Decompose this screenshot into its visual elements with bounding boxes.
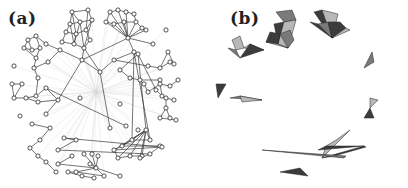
- node: [142, 82, 146, 86]
- panel-a: (a): [0, 0, 204, 188]
- node: [74, 170, 78, 174]
- node: [72, 42, 76, 46]
- node: [122, 20, 126, 24]
- node: [134, 20, 138, 24]
- node: [124, 124, 128, 128]
- network-graph-b: [204, 0, 408, 188]
- node: [90, 18, 94, 22]
- node: [36, 76, 40, 80]
- edge: [46, 88, 58, 100]
- node: [30, 48, 34, 52]
- node: [74, 32, 78, 36]
- node: [128, 76, 132, 80]
- node: [22, 46, 26, 50]
- node: [56, 148, 60, 152]
- node: [174, 118, 178, 122]
- node: [82, 46, 86, 50]
- node: [168, 60, 172, 64]
- node: [158, 78, 162, 82]
- edge: [58, 140, 76, 150]
- node: [112, 58, 116, 62]
- node: [118, 174, 122, 178]
- node: [44, 160, 48, 164]
- edge: [128, 22, 136, 38]
- node: [158, 66, 162, 70]
- node: [36, 100, 40, 104]
- node: [56, 98, 60, 102]
- node: [54, 170, 58, 174]
- simplex: [216, 84, 226, 98]
- panel-label-a: (a): [8, 8, 37, 28]
- edge: [36, 78, 38, 96]
- simplices: [216, 10, 378, 176]
- node: [98, 70, 102, 74]
- node: [164, 106, 168, 110]
- simplex: [364, 108, 374, 118]
- node: [88, 38, 92, 42]
- node: [44, 42, 48, 46]
- node: [148, 152, 152, 156]
- node: [108, 126, 112, 130]
- node: [30, 122, 34, 126]
- node: [144, 128, 148, 132]
- panel-b: (b): [204, 0, 408, 188]
- node: [120, 144, 124, 148]
- node: [60, 40, 64, 44]
- node: [138, 78, 142, 82]
- node: [126, 36, 130, 40]
- node: [128, 154, 132, 158]
- edge: [84, 20, 92, 48]
- node: [90, 152, 94, 156]
- node: [136, 128, 140, 132]
- node: [124, 10, 128, 14]
- node: [10, 82, 14, 86]
- node: [82, 152, 86, 156]
- edge: [138, 54, 156, 90]
- node: [96, 154, 100, 158]
- node: [34, 34, 38, 38]
- node: [158, 82, 162, 86]
- node: [160, 145, 164, 149]
- node: [26, 38, 30, 42]
- node: [168, 116, 172, 120]
- node: [66, 170, 70, 174]
- node: [136, 52, 140, 56]
- edge: [82, 60, 100, 72]
- node: [158, 116, 162, 120]
- edge: [70, 24, 74, 44]
- node: [166, 50, 170, 54]
- edge: [32, 124, 50, 128]
- node: [92, 176, 96, 180]
- node: [140, 26, 144, 30]
- simplex: [364, 52, 374, 68]
- node: [86, 8, 90, 12]
- edge: [80, 22, 84, 48]
- panel-label-b: (b): [230, 8, 259, 28]
- node: [12, 64, 16, 68]
- node: [164, 96, 168, 100]
- simplex: [232, 36, 244, 50]
- node: [176, 78, 180, 82]
- node: [172, 98, 176, 102]
- node: [78, 20, 82, 24]
- edge: [128, 38, 153, 44]
- node: [68, 22, 72, 26]
- node: [118, 102, 122, 106]
- node: [62, 136, 66, 140]
- node: [146, 64, 150, 68]
- node: [28, 146, 32, 150]
- node: [172, 62, 176, 66]
- node: [70, 154, 74, 158]
- node: [102, 174, 106, 178]
- node: [34, 94, 38, 98]
- node: [44, 86, 48, 90]
- node: [36, 154, 40, 158]
- node: [80, 174, 84, 178]
- simplex: [240, 96, 262, 102]
- node: [38, 46, 42, 50]
- node: [32, 66, 36, 70]
- node: [74, 138, 78, 142]
- node: [116, 8, 120, 12]
- node: [130, 138, 134, 142]
- node: [146, 90, 150, 94]
